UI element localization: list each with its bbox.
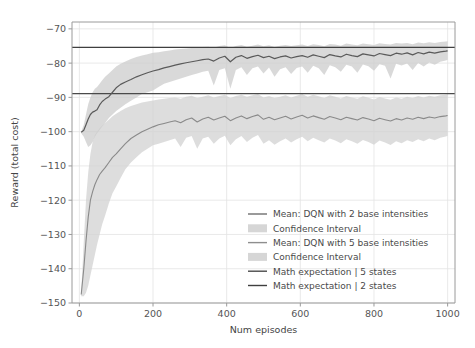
- legend-label: Confidence Interval: [273, 252, 361, 262]
- x-tick-label: 0: [76, 308, 82, 319]
- y-tick-label: −120: [40, 195, 66, 206]
- x-axis[interactable]: 02004006008001000: [76, 303, 459, 319]
- y-tick-label: −140: [40, 263, 66, 274]
- y-tick-label: −110: [40, 160, 66, 171]
- legend-label: Math expectation | 5 states: [273, 267, 397, 277]
- legend-swatch-confidence-interval: [248, 253, 267, 261]
- y-tick-label: −100: [40, 126, 66, 137]
- x-tick-label: 1000: [436, 308, 460, 319]
- y-tick-label: −130: [40, 229, 66, 240]
- y-tick-label: −80: [46, 58, 66, 69]
- legend-label: Mean: DQN with 2 base intensities: [273, 209, 429, 219]
- legend-label: Math expectation | 2 states: [273, 281, 397, 291]
- y-tick-label: −150: [40, 297, 66, 308]
- x-tick-label: 600: [291, 308, 309, 319]
- x-tick-label: 200: [144, 308, 162, 319]
- legend-label: Mean: DQN with 5 base intensities: [273, 238, 429, 248]
- x-axis-title: Num episodes: [230, 324, 298, 335]
- x-tick-label: 400: [218, 308, 236, 319]
- x-tick-label: 800: [365, 308, 383, 319]
- y-axis-title: Reward (total cost): [9, 117, 20, 207]
- reward-vs-episodes-chart: 02004006008001000−70−80−90−100−110−120−1…: [0, 0, 475, 348]
- legend-swatch-confidence-interval: [248, 224, 267, 232]
- legend-label: Confidence Interval: [273, 224, 361, 234]
- y-tick-label: −70: [46, 23, 66, 34]
- y-tick-label: −90: [46, 92, 66, 103]
- figure-canvas: 02004006008001000−70−80−90−100−110−120−1…: [0, 0, 475, 348]
- y-axis[interactable]: −70−80−90−100−110−120−130−140−150: [40, 23, 72, 308]
